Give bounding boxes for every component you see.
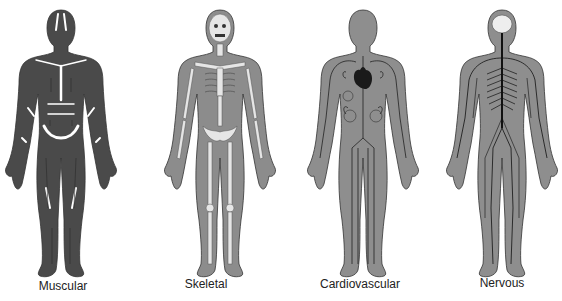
- label-muscular: Muscular: [0, 279, 133, 293]
- skeletal-figure: [164, 8, 276, 278]
- label-skeletal: Skeletal: [136, 277, 276, 291]
- cardiovascular-body-illustration: [307, 8, 419, 278]
- nervous-body-illustration: [446, 8, 558, 278]
- skeletal-body-illustration: [164, 8, 276, 278]
- label-nervous: Nervous: [432, 276, 562, 290]
- cardiovascular-figure: [307, 8, 419, 278]
- label-cardiovascular: Cardiovascular: [290, 277, 430, 291]
- brain-icon: [492, 15, 512, 33]
- nervous-figure: [446, 8, 558, 278]
- muscular-figure: [5, 8, 117, 278]
- muscular-body-illustration: [5, 8, 117, 278]
